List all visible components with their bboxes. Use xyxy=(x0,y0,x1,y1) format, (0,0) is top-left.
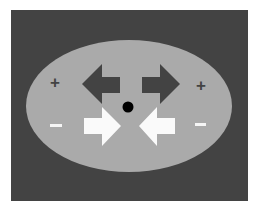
left-minus-icon xyxy=(50,124,62,127)
fixation-dot xyxy=(123,102,134,113)
diagram-canvas: + + xyxy=(0,0,255,211)
right-plus-label: + xyxy=(196,76,206,95)
left-plus-label: + xyxy=(50,73,60,92)
right-minus-icon xyxy=(195,123,206,126)
